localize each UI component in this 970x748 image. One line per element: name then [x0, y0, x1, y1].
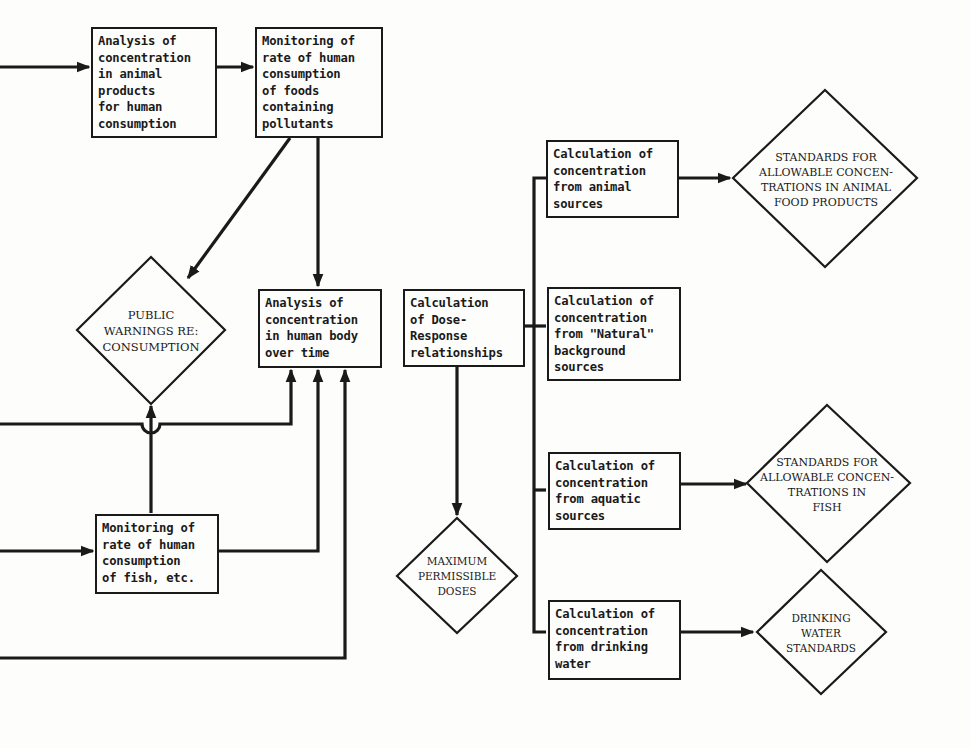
bus-line	[534, 178, 546, 632]
box-fish-consumption-monitoring: Monitoring of rate of human consumption …	[95, 514, 219, 594]
box-human-body-analysis: Analysis of concentration in human body …	[258, 289, 382, 368]
diamond-standards-animal-food: STANDARDS FOR ALLOWABLE CONCEN- TRATIONS…	[759, 150, 893, 210]
flowchart-canvas: Analysis of concentration in animal prod…	[0, 0, 970, 748]
diamond-public-warnings: PUBLIC WARNINGS RE: CONSUMPTION	[102, 307, 199, 355]
box-dose-response: Calculation of Dose- Response relationsh…	[403, 289, 525, 367]
diamond-drinking-water-standards: DRINKING WATER STANDARDS	[786, 611, 856, 656]
box-calc-natural-sources: Calculation of concentration from "Natur…	[547, 287, 681, 381]
box-food-consumption-monitoring: Monitoring of rate of human consumption …	[255, 27, 383, 138]
arrow-fish-to-body	[219, 370, 318, 551]
diamond-standards-fish: STANDARDS FOR ALLOWABLE CONCEN- TRATIONS…	[760, 455, 894, 515]
box-animal-products-analysis: Analysis of concentration in animal prod…	[91, 27, 217, 138]
diamond-max-permissible-doses: MAXIMUM PERMISSIBLE DOSES	[418, 554, 496, 599]
box-calc-drinking-water: Calculation of concentration from drinki…	[548, 600, 681, 680]
arrow-food-to-warnings	[188, 138, 290, 278]
box-calc-aquatic-sources: Calculation of concentration from aquati…	[548, 452, 681, 530]
box-calc-animal-sources: Calculation of concentration from animal…	[546, 140, 679, 218]
